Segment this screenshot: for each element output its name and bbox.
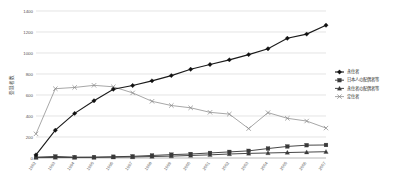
marker-diamond (227, 58, 231, 62)
x-tick-1997: 1997 (124, 160, 134, 171)
y-tick-600: 600 (26, 93, 34, 98)
y-tick-1400: 1400 (23, 9, 33, 14)
marker-diamond (208, 62, 212, 66)
legend-item-diamond[interactable]: 永住者 (335, 68, 360, 75)
series-line (36, 25, 326, 155)
data-series (34, 23, 328, 159)
x-tick-1994: 1994 (66, 160, 76, 171)
x-tick-2000: 2000 (182, 160, 192, 171)
legend-label: 永住者の配偶者等 (347, 85, 380, 92)
y-tick-400: 400 (26, 114, 34, 119)
legend-item-triangle[interactable]: 永住者の配偶者等 (335, 85, 380, 92)
marker-cross (324, 126, 328, 130)
marker-square (338, 78, 342, 82)
marker-diamond (188, 67, 192, 71)
x-tick-1992: 1992 (27, 160, 37, 171)
x-tick-1998: 1998 (143, 160, 153, 171)
x-tick-2006: 2006 (298, 160, 308, 171)
legend-label: 永住者 (347, 68, 360, 75)
marker-cross (34, 132, 38, 136)
series-square (34, 143, 328, 159)
x-tick-1993: 1993 (47, 160, 57, 171)
chart-container: 0200400600800100012001400 19921993199419… (0, 0, 403, 192)
legend-item-square[interactable]: 日本人の配偶者等 (335, 76, 380, 83)
marker-diamond (304, 32, 308, 36)
chart-legend: 永住者日本人の配偶者等永住者の配偶者等定住者 (335, 68, 380, 100)
y-tick-1000: 1000 (23, 51, 33, 56)
legend-label: 日本人の配偶者等 (347, 76, 380, 83)
gridlines (36, 11, 326, 158)
x-tick-1999: 1999 (163, 160, 173, 171)
x-tick-2007: 2007 (317, 160, 327, 171)
marker-cross (266, 110, 270, 114)
marker-diamond (150, 79, 154, 83)
y-tick-0: 0 (31, 156, 34, 161)
y-tick-800: 800 (26, 72, 34, 77)
x-tick-2001: 2001 (201, 160, 211, 171)
legend-label: 定住者 (347, 93, 360, 100)
line-chart: 0200400600800100012001400 19921993199419… (0, 0, 403, 192)
marker-square (266, 147, 270, 151)
marker-cross (246, 126, 250, 130)
x-axis-tick-labels: 1992199319941995199619971998199920002001… (27, 160, 327, 171)
x-tick-2005: 2005 (279, 160, 289, 171)
y-axis-label: 登録者数 (8, 75, 15, 95)
x-tick-2003: 2003 (240, 160, 250, 171)
y-axis-title: 登録者数 (8, 75, 15, 95)
series-cross (34, 83, 328, 136)
marker-cross (130, 91, 134, 95)
y-tick-200: 200 (26, 135, 34, 140)
y-tick-1200: 1200 (23, 30, 33, 35)
marker-square (305, 143, 309, 147)
x-tick-1995: 1995 (85, 160, 95, 171)
marker-diamond (324, 23, 328, 27)
marker-square (285, 145, 289, 149)
marker-diamond (337, 70, 341, 74)
marker-diamond (130, 83, 134, 87)
marker-square (324, 143, 328, 147)
x-tick-1996: 1996 (105, 160, 115, 171)
y-axis-tick-labels: 0200400600800100012001400 (23, 9, 33, 161)
marker-diamond (285, 36, 289, 40)
x-tick-2002: 2002 (221, 160, 231, 171)
legend-item-cross[interactable]: 定住者 (335, 93, 360, 100)
x-tick-2004: 2004 (259, 160, 269, 171)
marker-diamond (266, 47, 270, 51)
